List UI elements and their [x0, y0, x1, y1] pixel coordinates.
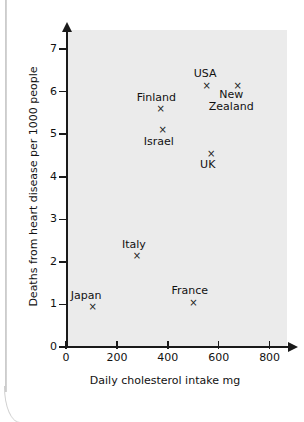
y-tick-1 [59, 304, 67, 306]
x-tick-200 [116, 341, 118, 349]
x-axis-title: Daily cholesterol intake mg [40, 374, 290, 387]
data-point-finland: × [156, 104, 165, 113]
y-tick-2 [59, 261, 67, 263]
data-point-france: × [189, 298, 198, 307]
data-point-uk: × [207, 149, 216, 158]
data-point-label-finland: Finland [137, 92, 176, 104]
data-point-label-usa: USA [194, 68, 217, 80]
y-tick-label-0: 0 [37, 341, 57, 352]
y-tick-label-5: 5 [37, 128, 57, 139]
x-tick-800 [269, 341, 271, 349]
x-axis-arrow-icon [288, 342, 298, 352]
y-axis-arrow-icon [62, 22, 72, 32]
y-tick-label-3: 3 [37, 213, 57, 224]
data-point-label-japan: Japan [71, 290, 102, 302]
x-tick-400 [167, 341, 169, 349]
y-tick-label-1: 1 [37, 298, 57, 309]
x-tick-label-0: 0 [46, 352, 86, 363]
x-tick-label-200: 200 [97, 352, 137, 363]
data-point-israel: × [158, 125, 167, 134]
data-point-label-uk: UK [200, 159, 215, 171]
y-tick-3 [59, 219, 67, 221]
x-axis-line [66, 346, 290, 348]
figure-page: 01234567 0200400600800 ×Japan×France×Ita… [0, 0, 304, 422]
data-point-italy: × [133, 251, 142, 260]
y-axis-line [66, 30, 68, 347]
data-point-japan: × [88, 302, 97, 311]
y-axis-title: Deaths from heart disease per 1000 peopl… [27, 62, 40, 312]
y-tick-label-7: 7 [37, 43, 57, 54]
y-tick-6 [59, 91, 67, 93]
x-tick-label-800: 800 [250, 352, 290, 363]
data-point-label-italy: Italy [122, 239, 146, 251]
y-tick-label-6: 6 [37, 86, 57, 97]
y-tick-7 [59, 48, 67, 50]
data-point-label-new-zealand: New Zealand [209, 89, 254, 113]
y-tick-4 [59, 176, 67, 178]
y-tick-label-2: 2 [37, 256, 57, 267]
scatter-chart: 01234567 0200400600800 ×Japan×France×Ita… [0, 0, 304, 422]
x-tick-0 [65, 341, 67, 349]
x-tick-600 [218, 341, 220, 349]
y-tick-label-4: 4 [37, 171, 57, 182]
data-point-label-israel: Israel [144, 136, 174, 148]
x-tick-label-400: 400 [148, 352, 188, 363]
y-tick-5 [59, 133, 67, 135]
x-tick-label-600: 600 [199, 352, 239, 363]
data-point-label-france: France [172, 285, 209, 297]
